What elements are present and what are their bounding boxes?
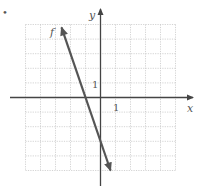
function-line-f [62, 27, 111, 170]
function-label-f: f [49, 26, 56, 39]
bullet-mark: • [2, 7, 8, 18]
x-axis-label: x [187, 102, 194, 115]
y-tick-label: 1 [92, 79, 98, 90]
graph: • x y 1 1 f [0, 0, 202, 191]
y-axis-label: y [88, 9, 96, 22]
x-tick-label: 1 [113, 102, 119, 113]
